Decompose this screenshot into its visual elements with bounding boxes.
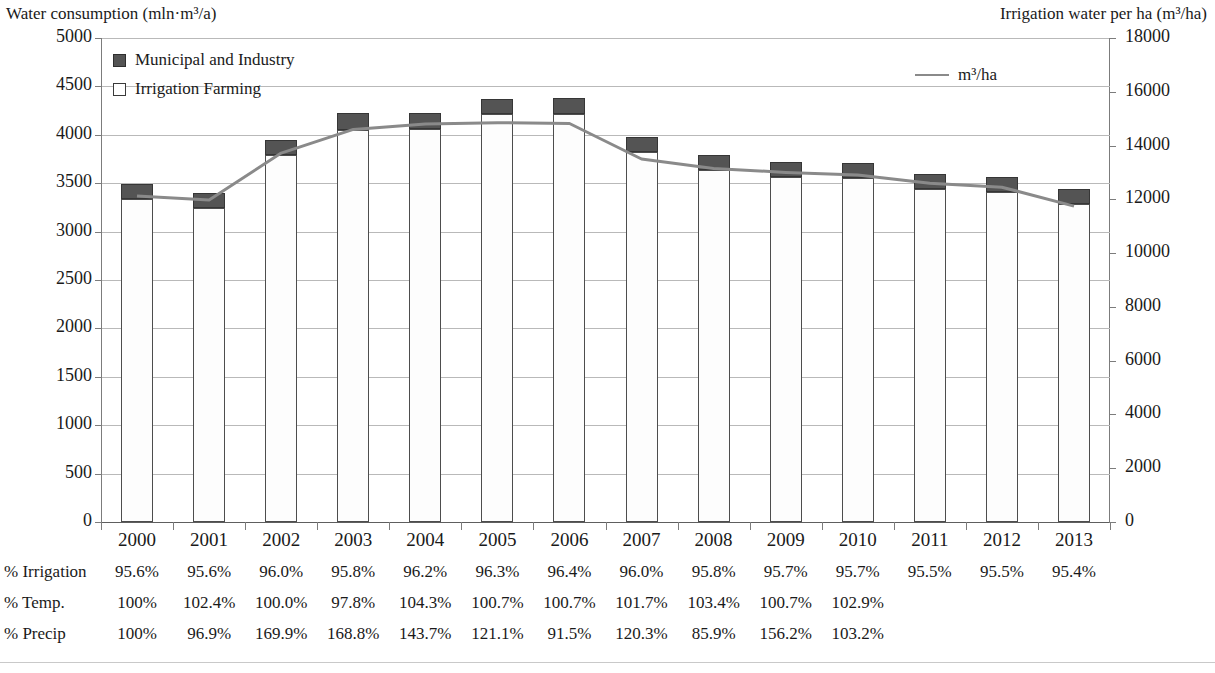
y-tick-label-right: 10000 xyxy=(1125,241,1170,262)
year-label-cell: 2013 xyxy=(1038,529,1110,551)
year-label-cell: 2001 xyxy=(173,529,245,551)
y-tick-right xyxy=(1109,92,1116,93)
pct-temp-cell: 101.7% xyxy=(606,593,678,613)
y-tick-label-left: 1000 xyxy=(56,413,92,434)
legend-item-irrigation: Irrigation Farming xyxy=(113,79,261,99)
left-axis-title: Water consumption (mln·m³/a) xyxy=(6,4,217,24)
table-row-label: % Irrigation xyxy=(4,562,87,582)
year-label-cell: 2000 xyxy=(101,529,173,551)
plot-area: 5000450040003500300025002000150010005000… xyxy=(101,38,1110,522)
legend-label-irrigation: Irrigation Farming xyxy=(135,79,261,99)
y-tick-label-right: 4000 xyxy=(1125,402,1161,423)
year-label-cell: 2010 xyxy=(822,529,894,551)
year-label-cell: 2011 xyxy=(894,529,966,551)
pct-precip-cell: 96.9% xyxy=(173,624,245,644)
bottom-rule xyxy=(0,662,1215,663)
y-tick-label-left: 1500 xyxy=(56,365,92,386)
y-tick-label-right: 14000 xyxy=(1125,134,1170,155)
pct-precip-cell: 121.1% xyxy=(461,624,533,644)
pct-irrigation-cell: 95.6% xyxy=(101,562,173,582)
legend-swatch-irrigation-icon xyxy=(113,83,126,96)
year-label-cell: 2004 xyxy=(389,529,461,551)
legend-item-line: m³/ha xyxy=(915,65,997,85)
y-tick-right xyxy=(1109,414,1116,415)
pct-irrigation-cell: 96.3% xyxy=(461,562,533,582)
table-row: % Irrigation95.6%95.6%96.0%95.8%96.2%96.… xyxy=(0,559,1215,590)
table-row-label: % Temp. xyxy=(4,593,65,613)
y-tick-right xyxy=(1109,468,1116,469)
pct-irrigation-cell: 96.0% xyxy=(245,562,317,582)
y-tick-label-right: 16000 xyxy=(1125,80,1170,101)
pct-precip-cell: 169.9% xyxy=(245,624,317,644)
pct-precip-cell: 120.3% xyxy=(606,624,678,644)
year-label-cell: 2007 xyxy=(606,529,678,551)
pct-irrigation-cell: 96.0% xyxy=(606,562,678,582)
y-tick-label-left: 4000 xyxy=(56,123,92,144)
y-tick-label-right: 8000 xyxy=(1125,295,1161,316)
pct-irrigation-cell: 95.5% xyxy=(894,562,966,582)
pct-precip-cell: 85.9% xyxy=(678,624,750,644)
table-row: 2000200120022003200420052006200720082009… xyxy=(0,528,1215,559)
year-label-cell: 2012 xyxy=(966,529,1038,551)
right-axis-title: Irrigation water per ha (m³/ha) xyxy=(1000,4,1207,24)
y-tick-label-left: 500 xyxy=(65,462,92,483)
y-tick-label-right: 6000 xyxy=(1125,349,1161,370)
pct-temp-cell: 100.0% xyxy=(245,593,317,613)
y-tick-label-right: 18000 xyxy=(1125,26,1170,47)
pct-temp-cell: 97.8% xyxy=(317,593,389,613)
pct-precip-cell: 156.2% xyxy=(750,624,822,644)
chart-figure: Water consumption (mln·m³/a) Irrigation … xyxy=(0,0,1215,673)
pct-temp-cell: 100.7% xyxy=(533,593,605,613)
y-tick-right xyxy=(1109,199,1116,200)
pct-irrigation-cell: 96.2% xyxy=(389,562,461,582)
pct-temp-cell: 100.7% xyxy=(750,593,822,613)
pct-temp-cell: 100.7% xyxy=(461,593,533,613)
y-tick-label-left: 4500 xyxy=(56,74,92,95)
legend-label-line: m³/ha xyxy=(958,65,997,85)
year-label-cell: 2003 xyxy=(317,529,389,551)
legend-swatch-municipal-icon xyxy=(113,54,126,67)
y-tick-right xyxy=(1109,361,1116,362)
line-path xyxy=(137,123,1074,206)
pct-irrigation-cell: 96.4% xyxy=(533,562,605,582)
y-tick-label-left: 2000 xyxy=(56,316,92,337)
data-table: 2000200120022003200420052006200720082009… xyxy=(0,528,1215,652)
pct-irrigation-cell: 95.7% xyxy=(822,562,894,582)
pct-irrigation-cell: 95.5% xyxy=(966,562,1038,582)
pct-temp-cell: 102.4% xyxy=(173,593,245,613)
pct-precip-cell: 100% xyxy=(101,624,173,644)
pct-temp-cell: 104.3% xyxy=(389,593,461,613)
y-tick-label-left: 3500 xyxy=(56,171,92,192)
pct-irrigation-cell: 95.8% xyxy=(317,562,389,582)
y-tick-right xyxy=(1109,253,1116,254)
table-row: % Temp.100%102.4%100.0%97.8%104.3%100.7%… xyxy=(0,590,1215,621)
legend-item-municipal: Municipal and Industry xyxy=(113,50,295,70)
pct-irrigation-cell: 95.8% xyxy=(678,562,750,582)
table-row-label: % Precip xyxy=(4,624,66,644)
y-tick-label-left: 2500 xyxy=(56,268,92,289)
pct-irrigation-cell: 95.7% xyxy=(750,562,822,582)
pct-irrigation-cell: 95.6% xyxy=(173,562,245,582)
table-row: % Precip100%96.9%169.9%168.8%143.7%121.1… xyxy=(0,621,1215,652)
y-tick-right xyxy=(1109,38,1116,39)
pct-precip-cell: 91.5% xyxy=(533,624,605,644)
year-label-cell: 2006 xyxy=(533,529,605,551)
line-series xyxy=(101,38,1110,522)
pct-precip-cell: 168.8% xyxy=(317,624,389,644)
legend-line-icon xyxy=(915,74,949,76)
y-tick-right xyxy=(1109,146,1116,147)
y-tick-label-left: 5000 xyxy=(56,26,92,47)
y-tick-label-right: 2000 xyxy=(1125,456,1161,477)
year-label-cell: 2008 xyxy=(678,529,750,551)
legend-label-municipal: Municipal and Industry xyxy=(135,50,295,70)
year-label-cell: 2009 xyxy=(750,529,822,551)
pct-precip-cell: 143.7% xyxy=(389,624,461,644)
pct-irrigation-cell: 95.4% xyxy=(1038,562,1110,582)
pct-precip-cell: 103.2% xyxy=(822,624,894,644)
pct-temp-cell: 103.4% xyxy=(678,593,750,613)
pct-temp-cell: 102.9% xyxy=(822,593,894,613)
year-label-cell: 2005 xyxy=(461,529,533,551)
y-tick-right xyxy=(1109,307,1116,308)
y-tick-label-right: 12000 xyxy=(1125,187,1170,208)
y-tick-label-left: 3000 xyxy=(56,220,92,241)
